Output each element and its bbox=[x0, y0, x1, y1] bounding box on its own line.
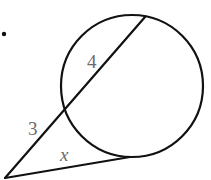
label-tangent: x bbox=[59, 144, 69, 165]
problem-marker-dot bbox=[2, 32, 6, 36]
secant-tangent-diagram: 4 3 x bbox=[0, 0, 211, 180]
label-outer-segment: 3 bbox=[28, 118, 38, 139]
circle bbox=[61, 15, 203, 157]
secant-line bbox=[5, 17, 145, 178]
label-inner-segment: 4 bbox=[87, 51, 97, 72]
